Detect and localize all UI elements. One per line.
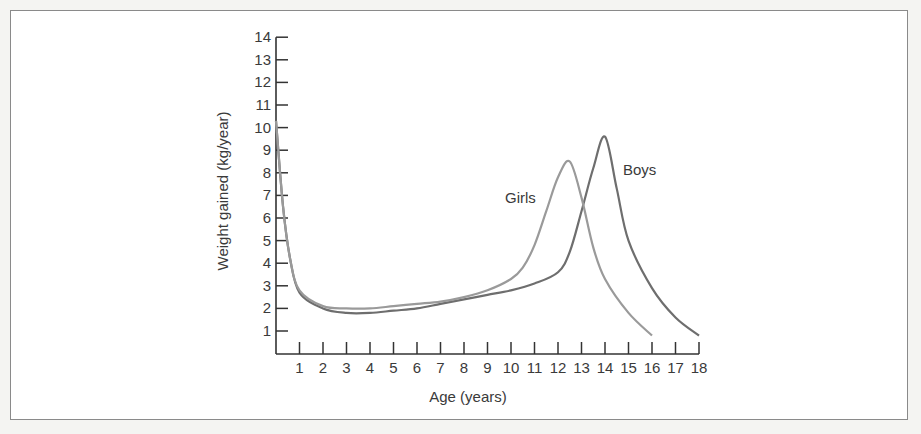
y-tick-label: 2 bbox=[263, 299, 271, 316]
series-label-girls: Girls bbox=[505, 189, 536, 206]
x-tick-label: 14 bbox=[597, 359, 614, 376]
x-tick-label: 12 bbox=[550, 359, 567, 376]
x-tick-label: 7 bbox=[436, 359, 444, 376]
x-tick-label: 9 bbox=[483, 359, 491, 376]
y-tick-label: 11 bbox=[255, 96, 271, 113]
x-tick-label: 4 bbox=[366, 359, 374, 376]
series-line-girls bbox=[276, 121, 652, 336]
x-tick-label: 15 bbox=[620, 359, 637, 376]
x-tick-label: 16 bbox=[644, 359, 661, 376]
x-tick-label: 13 bbox=[573, 359, 590, 376]
x-tick-label: 10 bbox=[503, 359, 520, 376]
x-axis-title: Age (years) bbox=[429, 388, 507, 405]
y-axis-title: Weight gained (kg/year) bbox=[214, 112, 231, 271]
y-tick-label: 6 bbox=[263, 209, 271, 226]
y-tick-label: 9 bbox=[263, 141, 271, 158]
x-tick-label: 1 bbox=[295, 359, 303, 376]
x-tick-label: 3 bbox=[342, 359, 350, 376]
x-tick-label: 2 bbox=[319, 359, 327, 376]
y-tick-label: 10 bbox=[254, 119, 271, 136]
y-tick-label: 8 bbox=[263, 164, 271, 181]
x-tick-label: 5 bbox=[389, 359, 397, 376]
x-tick-label: 11 bbox=[527, 359, 543, 376]
y-tick-label: 7 bbox=[263, 186, 271, 203]
x-tick-label: 18 bbox=[691, 359, 708, 376]
y-tick-label: 5 bbox=[263, 232, 271, 249]
x-tick-label: 8 bbox=[460, 359, 468, 376]
line-chart: 1234567891011121314123456789101112131415… bbox=[0, 0, 921, 434]
y-tick-label: 13 bbox=[254, 51, 271, 68]
x-tick-label: 17 bbox=[667, 359, 684, 376]
y-tick-label: 12 bbox=[254, 73, 271, 90]
series-lines bbox=[276, 121, 699, 336]
x-tick-label: 6 bbox=[413, 359, 421, 376]
y-tick-label: 1 bbox=[263, 322, 271, 339]
y-tick-label: 4 bbox=[263, 254, 271, 271]
series-label-boys: Boys bbox=[623, 161, 656, 178]
y-tick-label: 3 bbox=[263, 277, 271, 294]
series-line-boys bbox=[276, 121, 699, 336]
y-tick-label: 14 bbox=[254, 28, 271, 45]
